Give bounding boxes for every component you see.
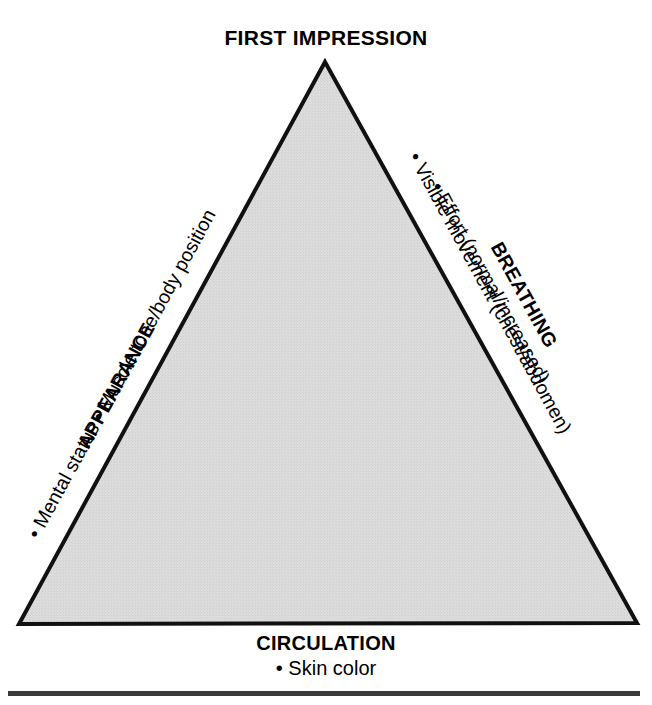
triangle-svg [0,0,652,705]
triangle-shape [0,0,652,705]
apex-heading-first-impression: FIRST IMPRESSION [0,26,652,50]
bottom-side-bullet-skin-color: • Skin color [0,656,652,680]
bottom-side-labels: CIRCULATION • Skin color [0,632,652,680]
figure-canvas: FIRST IMPRESSION • Mental status • Muscl… [0,0,652,705]
bottom-divider-rule [8,691,640,696]
bottom-side-heading-circulation: CIRCULATION [0,632,652,655]
